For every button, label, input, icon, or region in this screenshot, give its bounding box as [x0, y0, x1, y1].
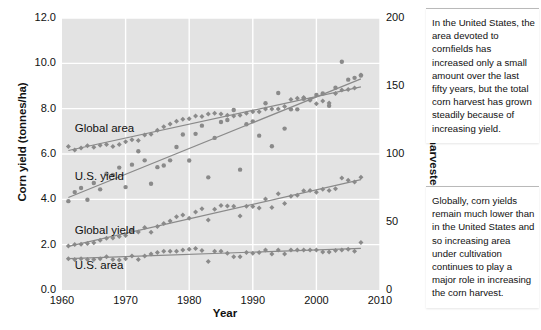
data-point [219, 120, 223, 124]
data-point [161, 249, 166, 254]
data-point [346, 247, 351, 252]
data-point [149, 230, 154, 235]
data-point [110, 144, 115, 149]
data-point [301, 96, 305, 100]
data-point [129, 254, 134, 259]
data-point [352, 86, 357, 91]
data-point [155, 250, 160, 255]
data-point [269, 205, 274, 210]
data-point [161, 124, 166, 129]
data-point [206, 259, 211, 264]
data-point [155, 165, 159, 169]
data-point [276, 191, 281, 196]
data-point [174, 119, 179, 124]
data-point [352, 76, 356, 80]
data-point [359, 73, 363, 77]
data-point [129, 137, 134, 142]
data-point [117, 142, 122, 147]
y-left-tick: 12.0 [16, 11, 56, 23]
y-right-tick: 200 [386, 11, 426, 23]
data-point [174, 214, 179, 219]
data-point [232, 108, 236, 112]
y-left-tick: 2.0 [16, 238, 56, 250]
data-point [257, 250, 262, 255]
note-us: In the United States, the area devoted t… [426, 8, 539, 143]
data-point [308, 97, 312, 101]
data-point [136, 257, 141, 262]
series-label-global-area: Global area [75, 122, 134, 134]
data-point [212, 136, 216, 140]
data-point [136, 149, 140, 153]
data-point [206, 111, 211, 116]
data-point [79, 145, 84, 150]
data-point [339, 247, 344, 252]
data-point [295, 107, 299, 111]
data-point [251, 119, 255, 123]
data-point [225, 251, 230, 256]
plot-area: Global areaU.S. yieldGlobal yieldU.S. ar… [62, 18, 380, 290]
x-axis-title: Year [60, 307, 390, 319]
data-point [73, 190, 77, 194]
data-point [257, 133, 261, 137]
data-point [85, 143, 90, 148]
data-point [162, 163, 166, 167]
data-point [193, 132, 197, 136]
data-point [282, 201, 287, 206]
data-point [187, 116, 192, 121]
data-point [269, 107, 274, 112]
data-point [149, 181, 153, 185]
x-tick: 1990 [230, 294, 276, 306]
note-global: Globally, corn yields remain much lower … [426, 186, 539, 308]
data-point [212, 207, 217, 212]
series-label-u-s-yield: U.S. yield [75, 170, 124, 182]
data-point [301, 247, 306, 252]
x-tick: 1960 [39, 294, 85, 306]
data-point [181, 132, 185, 136]
data-point [193, 113, 198, 118]
data-point [295, 247, 300, 252]
data-point [98, 187, 102, 191]
data-point [314, 101, 319, 106]
data-point [123, 139, 128, 144]
data-point [308, 247, 313, 252]
side-notes: In the United States, the area devoted t… [426, 0, 541, 330]
data-point [142, 254, 147, 259]
data-point [66, 256, 71, 261]
data-point [180, 247, 185, 252]
chart-figure: Corn yield (tonnes/ha) Corn area harvest… [0, 0, 420, 330]
data-point [225, 203, 230, 208]
x-tick: 1980 [166, 294, 212, 306]
data-point [244, 122, 248, 126]
data-point [282, 251, 287, 256]
data-point [276, 91, 280, 95]
data-point [168, 158, 172, 162]
data-point [212, 111, 217, 116]
data-point [333, 186, 338, 191]
data-point [244, 204, 249, 209]
data-point [327, 249, 332, 254]
data-point [66, 199, 70, 203]
data-point [66, 144, 71, 149]
x-tick: 1970 [103, 294, 149, 306]
series-global-yield [66, 175, 364, 249]
data-point [352, 249, 357, 254]
y-left-tick: 10.0 [16, 56, 56, 68]
data-point [314, 93, 318, 97]
data-point [340, 60, 344, 64]
data-point [79, 186, 83, 190]
data-point [200, 123, 204, 127]
series-global-area [66, 73, 364, 153]
x-tick: 2000 [293, 294, 339, 306]
data-point [269, 251, 274, 256]
series-label-global-yield: Global yield [75, 224, 135, 236]
data-point [168, 122, 173, 127]
data-point [72, 242, 77, 247]
data-point [257, 109, 262, 114]
data-point [219, 203, 224, 208]
data-point [270, 144, 274, 148]
data-point [314, 247, 319, 252]
series-label-u-s-area: U.S. area [75, 259, 124, 271]
data-point [193, 210, 198, 215]
data-point [130, 162, 134, 166]
data-point [244, 250, 249, 255]
